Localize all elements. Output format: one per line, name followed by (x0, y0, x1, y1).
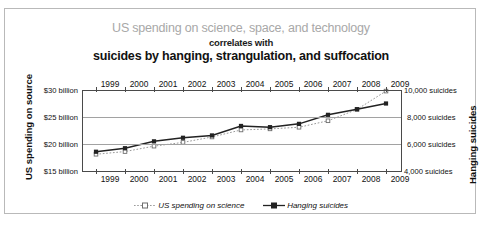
data-point-marker (384, 101, 388, 105)
x-tick-label: 2000 (130, 174, 149, 184)
x-tick-label: 2006 (304, 174, 323, 184)
x-tick-label: 2004 (246, 79, 265, 89)
x-tick-label: 2008 (362, 79, 381, 89)
data-point-marker (326, 119, 330, 123)
x-tick (212, 169, 213, 174)
x-tick-label: 2005 (275, 79, 294, 89)
y-axis-left (82, 90, 83, 172)
x-tick (328, 169, 329, 174)
y-axis-right (401, 90, 402, 172)
x-tick-label: 2009 (391, 79, 410, 89)
y2-tick-label-10000: 10,000 suicides (404, 86, 457, 95)
legend-label-suicides: Hanging suicides (287, 201, 348, 210)
x-tick (386, 169, 387, 174)
y-axis-right-title: Hanging suicides (467, 105, 478, 184)
data-point-marker (297, 122, 301, 126)
x-tick (154, 169, 155, 174)
legend-label-spending: US spending on science (158, 201, 244, 210)
gridline-25b-8000 (82, 117, 402, 118)
data-point-marker (94, 150, 98, 154)
data-point-marker (297, 125, 301, 129)
x-axis-top (82, 90, 402, 91)
x-tick-label: 2002 (188, 174, 207, 184)
data-point-marker (210, 133, 214, 137)
x-tick-label: 2001 (159, 79, 178, 89)
gridline-20b-6000 (82, 144, 402, 145)
x-tick (270, 87, 271, 92)
data-point-marker (239, 124, 243, 128)
x-tick-label: 2000 (130, 79, 149, 89)
legend-marker-spending (134, 202, 156, 209)
x-tick-label: 1999 (101, 79, 120, 89)
chart-frame: US spending on science, space, and techn… (4, 8, 476, 214)
y-tick-label-25b: $25 billion (16, 113, 78, 122)
y2-tick-label-4000: 4,000 suicides (404, 167, 453, 176)
x-tick-label: 2004 (246, 174, 265, 184)
x-tick-label: 2006 (304, 79, 323, 89)
data-point-marker (123, 146, 127, 150)
x-tick-label: 2007 (333, 79, 352, 89)
x-tick (328, 87, 329, 92)
data-point-marker (355, 107, 359, 111)
plot-area: 1999200020012002200320042005200620072008… (82, 90, 402, 179)
x-tick (154, 87, 155, 92)
x-tick (357, 169, 358, 174)
y-tick-label-30b: $30 billion (16, 86, 78, 95)
x-tick (299, 87, 300, 92)
x-tick (125, 87, 126, 92)
x-tick-label: 2009 (391, 174, 410, 184)
series-lines (82, 90, 402, 179)
data-point-marker (181, 136, 185, 140)
y2-tick-label-6000: 6,000 suicides (407, 140, 456, 149)
x-axis-bottom (82, 171, 402, 172)
x-tick (270, 169, 271, 174)
chart-legend: US spending on science Hanging suicides (5, 201, 477, 210)
y-tick-label-20b: $20 billion (16, 140, 78, 149)
x-tick-label: 1999 (101, 174, 120, 184)
x-tick-label: 2008 (362, 174, 381, 184)
x-tick (386, 87, 387, 92)
x-tick-label: 2001 (159, 174, 178, 184)
x-tick (125, 169, 126, 174)
x-tick-label: 2002 (188, 79, 207, 89)
x-tick (96, 87, 97, 92)
chart-title-line2: correlates with (5, 37, 477, 48)
data-point-marker (152, 139, 156, 143)
x-tick (357, 87, 358, 92)
legend-marker-suicides (263, 202, 285, 209)
chart-title-line1: US spending on science, space, and techn… (5, 21, 477, 35)
data-point-marker (239, 128, 243, 132)
x-tick-label: 2007 (333, 174, 352, 184)
chart-title-line3: suicides by hanging, strangulation, and … (5, 49, 477, 63)
x-tick-label: 2005 (275, 174, 294, 184)
x-tick-label: 2003 (217, 79, 236, 89)
x-tick (241, 87, 242, 92)
x-tick (183, 169, 184, 174)
x-tick (212, 87, 213, 92)
x-tick (299, 169, 300, 174)
x-tick (241, 169, 242, 174)
y-tick-label-15b: $15 billion (16, 167, 78, 176)
x-tick (183, 87, 184, 92)
y2-tick-label-8000: 8,000 suicides (407, 113, 456, 122)
data-point-marker (268, 125, 272, 129)
x-tick (96, 169, 97, 174)
x-tick-label: 2003 (217, 174, 236, 184)
